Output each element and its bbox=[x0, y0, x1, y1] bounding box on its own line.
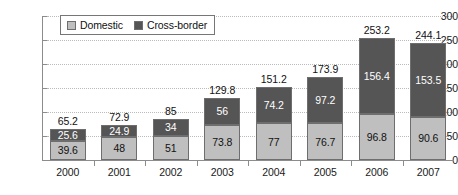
y-axis-tick bbox=[42, 64, 47, 65]
bar-segment-cross-border: 24.9 bbox=[101, 125, 137, 137]
x-axis-tick-label: 2001 bbox=[94, 166, 146, 178]
bar-segment-domestic: 96.8 bbox=[359, 114, 395, 160]
x-axis-tick-label: 2007 bbox=[403, 166, 455, 178]
bar-segment-domestic: 77 bbox=[256, 123, 292, 160]
bar-total-label: 65.2 bbox=[42, 115, 94, 127]
bar-segment-domestic: 73.8 bbox=[204, 125, 240, 160]
bar-segment-domestic: 90.6 bbox=[410, 117, 446, 160]
x-axis-tick-label: 2002 bbox=[145, 166, 197, 178]
x-axis-tick-label: 2004 bbox=[248, 166, 300, 178]
x-axis-tick-label: 2006 bbox=[351, 166, 403, 178]
y-axis-tick bbox=[42, 88, 47, 89]
stacked-bar-chart: 050100150200250300 200020012002200320042… bbox=[0, 0, 458, 195]
x-axis-tick-label: 2005 bbox=[300, 166, 352, 178]
bar-total-label: 173.9 bbox=[300, 63, 352, 75]
y-axis-tick bbox=[42, 40, 47, 41]
legend-label-cross-border: Cross-border bbox=[147, 19, 207, 31]
y-axis-tick bbox=[42, 136, 47, 137]
chart-legend: Domestic Cross-border bbox=[60, 15, 215, 35]
bar-segment-domestic: 48 bbox=[101, 137, 137, 160]
legend-swatch-cross-border-icon bbox=[134, 21, 143, 30]
bar-segment-cross-border: 34 bbox=[153, 119, 189, 135]
bar-segment-domestic: 51 bbox=[153, 136, 189, 160]
bar-total-label: 253.2 bbox=[351, 24, 403, 36]
bar-segment-cross-border: 156.4 bbox=[359, 38, 395, 113]
bar-segment-cross-border: 25.6 bbox=[50, 129, 86, 141]
bar-total-label: 151.2 bbox=[248, 73, 300, 85]
bar-segment-cross-border: 97.2 bbox=[307, 77, 343, 124]
bar-segment-domestic: 76.7 bbox=[307, 123, 343, 160]
x-axis-tick-label: 2003 bbox=[197, 166, 249, 178]
bar-segment-cross-border: 74.2 bbox=[256, 87, 292, 123]
bar-segment-domestic: 39.6 bbox=[50, 141, 86, 160]
bar-segment-cross-border: 56 bbox=[204, 98, 240, 125]
y-axis-tick bbox=[42, 112, 47, 113]
x-axis-tick-label: 2000 bbox=[42, 166, 94, 178]
bar-total-label: 85 bbox=[145, 105, 197, 117]
y-axis-tick bbox=[42, 16, 47, 17]
bar-total-label: 244.1 bbox=[403, 29, 455, 41]
legend-label-domestic: Domestic bbox=[80, 19, 123, 31]
bar-segment-cross-border: 153.5 bbox=[410, 43, 446, 117]
legend-swatch-domestic-icon bbox=[67, 21, 76, 30]
bar-total-label: 72.9 bbox=[94, 111, 146, 123]
y-axis-tick-label: 300 bbox=[424, 10, 458, 22]
legend-item-domestic: Domestic bbox=[67, 19, 123, 31]
bar-total-label: 129.8 bbox=[197, 84, 249, 96]
legend-item-cross-border: Cross-border bbox=[134, 19, 207, 31]
